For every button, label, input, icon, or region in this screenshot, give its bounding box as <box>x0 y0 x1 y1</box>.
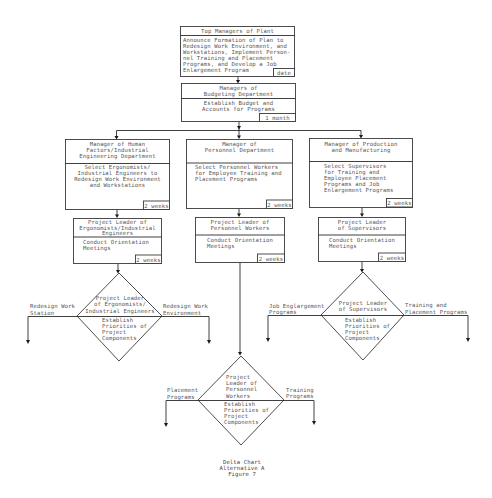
outcome-label-left: Station <box>30 310 54 316</box>
diamond-bottom-line: Components <box>224 419 259 426</box>
leader-body-line: Meetings <box>83 245 111 252</box>
manager-title-line: Engineering Department <box>79 153 155 160</box>
diamond-top-line: Industrial Engineers <box>85 308 154 315</box>
outcome-label-right: Environment <box>163 310 201 316</box>
budget-title-line: Budgeting Department <box>204 91 273 98</box>
arrow-down-icon <box>207 340 211 344</box>
decision-diamond-personnel: Project Leader of Personnel Workers Esta… <box>164 356 316 445</box>
duration-badge: 2 weeks <box>387 200 411 206</box>
arrow-down-icon <box>312 421 316 425</box>
arrow-down-icon <box>237 136 241 140</box>
outcome-label-right: Placement Programs <box>405 309 467 316</box>
leader-title-line: of Supervisors <box>338 225 387 232</box>
duration-badge: 2 weeks <box>267 202 291 208</box>
branch-connectors <box>115 122 364 140</box>
arrow-down-icon <box>359 135 363 139</box>
duration-badge: 2 weeks <box>259 256 283 262</box>
diamond-top-line: Personnel <box>226 386 257 392</box>
outcome-label-left: Programs <box>269 309 297 316</box>
budget-duration: 1 month <box>265 115 289 121</box>
decision-diamond-ergonomists: Project Leader of Ergonomists/ Industria… <box>26 273 211 361</box>
outcome-label-right: Programs <box>286 393 314 400</box>
manager-box-production: Manager of Production and Manufacturing … <box>310 139 413 208</box>
manager-body-line: Placement Programs <box>195 176 257 183</box>
manager-box-human-factors: Manager of Human Factors/Industrial Engi… <box>66 140 170 210</box>
manager-body-line: and Workstations <box>90 182 145 188</box>
manager-box-personnel: Manager of Personnel Department Select P… <box>187 140 293 209</box>
duration-badge: 2 weeks <box>136 257 160 263</box>
arrow-down-icon <box>236 80 240 84</box>
arrow-down-icon <box>115 136 119 140</box>
manager-title-line: Personnel Department <box>205 147 274 154</box>
manager-title-line: and Manufacturing <box>332 147 391 154</box>
arrow-down-icon <box>26 340 30 344</box>
duration-badge: 2 weeks <box>380 255 404 261</box>
figure-caption: Delta Chart Alternative A Figure 7 <box>219 459 265 478</box>
top-body-line: Enlargement Program <box>183 67 249 74</box>
outcome-label-left: Placement <box>167 387 198 393</box>
budget-body-line: Accounts for Programs <box>202 106 275 113</box>
top-managers-title: Top Managers of Plant <box>201 28 274 35</box>
leader-body-line: Meetings <box>207 243 235 250</box>
leader-title-line: Engineers <box>102 230 133 237</box>
arrow-down-icon <box>164 423 168 427</box>
manager-body-line: Enlargement Programs <box>324 187 393 194</box>
top-duration: date <box>277 70 291 76</box>
arrow-down-icon <box>266 338 270 342</box>
diamond-bottom-line: Components <box>102 335 137 342</box>
caption-line: Figure 7 <box>228 471 256 478</box>
leader-box-personnel: Project Leader of Personnel Workers Cond… <box>196 218 285 263</box>
leader-title-line: Personnel Workers <box>211 225 270 231</box>
arrow-down-icon <box>466 338 470 342</box>
leader-box-ergonomists: Project Leader of Ergonomists/Industrial… <box>74 219 162 264</box>
diamond-top-line: of Supervisors <box>339 306 388 313</box>
flowchart-canvas: Top Managers of Plant Announce Formation… <box>0 0 492 498</box>
budgeting-box: Managers of Budgeting Department Establi… <box>182 84 296 122</box>
decision-diamond-supervisors: Project Leader of Supervisors Establish … <box>266 272 470 360</box>
leader-body-line: Meetings <box>329 243 357 250</box>
leader-box-supervisors: Project Leader of Supervisors Conduct Or… <box>319 218 406 262</box>
diamond-top-line: Workers <box>226 393 250 399</box>
outcome-label-left: Programs <box>167 394 195 401</box>
top-managers-box: Top Managers of Plant Announce Formation… <box>181 27 295 77</box>
duration-badge: 2 weeks <box>144 203 168 209</box>
diamond-bottom-line: Components <box>345 335 380 342</box>
